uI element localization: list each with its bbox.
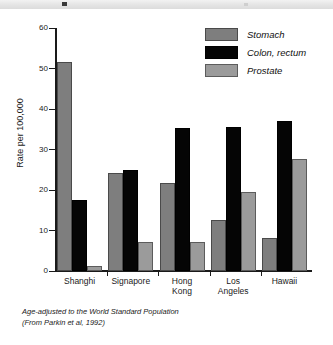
x-axis-tick [107, 272, 108, 276]
bar [123, 170, 138, 271]
legend-item: Prostate [205, 62, 333, 79]
bar [138, 242, 153, 271]
chart-figure: 0102030405060 Rate per 100,000 ShanghiSi… [0, 0, 333, 345]
x-axis-category-label-line: Angeles [198, 286, 268, 296]
bar-group [57, 28, 102, 271]
bar [292, 159, 307, 271]
y-axis-tick [49, 28, 56, 29]
legend-item: Stomach [205, 26, 333, 43]
bar [211, 220, 226, 271]
banner-mark-icon [62, 2, 67, 6]
x-axis-category-label-line: Hawaii [249, 276, 319, 286]
bar [57, 62, 72, 271]
bar [241, 192, 256, 271]
x-axis-category-label: Hawaii [249, 276, 319, 286]
legend-label: Prostate [247, 65, 282, 76]
legend-swatch [205, 46, 238, 59]
x-axis-tick [261, 272, 262, 276]
bar [262, 238, 277, 271]
y-axis-tick-label: 60 [20, 24, 48, 32]
bar [108, 173, 123, 271]
y-axis-tick-label: 10 [20, 227, 48, 235]
top-banner [0, 0, 333, 9]
bar [190, 242, 205, 271]
legend-label: Colon, rectum [247, 47, 306, 58]
y-axis-tick [49, 190, 56, 191]
footnote-line-2: (From Parkin et al, 1992) [22, 317, 322, 328]
y-axis-tick [49, 109, 56, 110]
footnote-line-1: Age-adjusted to the World Standard Popul… [22, 306, 322, 317]
y-axis-tick-label: 0 [20, 267, 48, 275]
chart-footnote: Age-adjusted to the World Standard Popul… [22, 306, 322, 328]
y-axis-title: Rate per 100,000 [15, 63, 25, 203]
y-axis-tick [49, 149, 56, 150]
y-axis-tick [49, 230, 56, 231]
legend-swatch [205, 64, 238, 77]
bar-group [108, 28, 153, 271]
bar [277, 121, 292, 271]
banner-mark-secondary-icon [244, 3, 248, 6]
bar [160, 183, 175, 271]
legend-label: Stomach [247, 29, 285, 40]
bar [72, 200, 87, 271]
bar-group [160, 28, 205, 271]
legend-item: Colon, rectum [205, 44, 333, 61]
legend-swatch [205, 28, 238, 41]
bar [87, 266, 102, 271]
y-axis-tick [49, 68, 56, 69]
x-axis-tick [210, 272, 211, 276]
x-axis-tick [158, 272, 159, 276]
bar [175, 128, 190, 271]
bar [226, 127, 241, 271]
chart-legend: StomachColon, rectumProstate [205, 26, 333, 80]
y-axis-tick [49, 271, 56, 272]
